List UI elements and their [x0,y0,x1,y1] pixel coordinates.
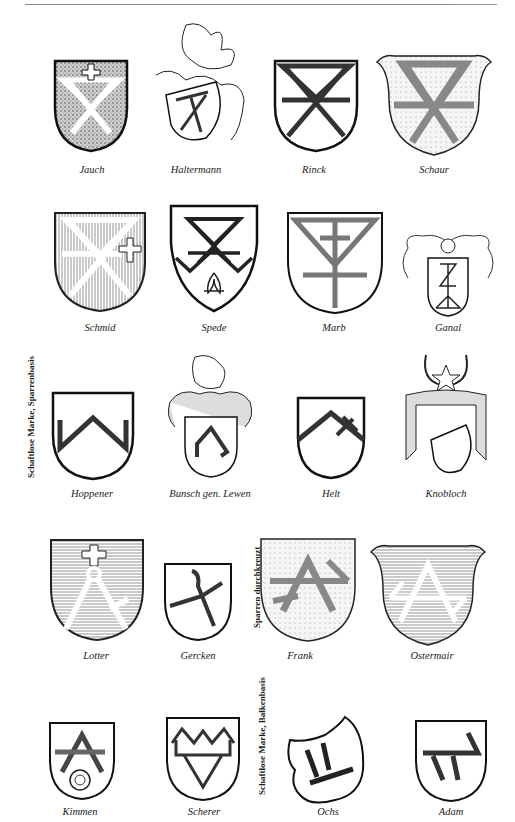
shield-icon [50,390,136,482]
caption: Hoppener [71,488,113,499]
shield-marb [285,210,385,316]
shield-frank [258,536,358,644]
shield-ostermair [368,540,488,648]
shield-gercken [162,561,234,643]
caption: Knobloch [426,488,467,499]
caption: Schmid [85,322,116,333]
shield-icon [164,715,242,803]
shield-helt [295,395,367,481]
shield-ganal [398,228,498,320]
shield-schaur [374,50,494,160]
shield-knobloch [396,350,496,480]
shield-icon [168,203,260,315]
crest-icon [396,350,496,480]
side-label: Schaftlose Marke, Sparrenbasis [26,356,36,478]
crest-icon [146,20,251,150]
shield-icon [285,210,385,316]
caption: Gercken [180,650,215,661]
shield-icon [295,395,367,481]
caption: Spede [201,322,226,333]
shield-icon [162,561,234,643]
side-label: Schaftlose Marke, Balkenbasis [257,677,267,795]
shield-icon [272,58,360,154]
shield-scherer [164,715,242,803]
caption: Frank [287,650,313,661]
caption: Kimmen [63,806,98,817]
caption: Ostermair [410,650,453,661]
shield-rinck [272,58,360,154]
caption: Bunsch gen. Lewen [169,488,250,499]
header-rule [25,4,497,5]
shield-icon [413,718,489,804]
caption: Helt [322,488,340,499]
shield-icon [258,536,358,644]
caption: Ochs [317,806,339,817]
caption: Adam [439,806,464,817]
shield-hoppener [50,390,136,482]
shield-spede [168,203,260,315]
caption: Rinck [302,164,326,175]
shield-icon [374,50,494,160]
shield-bunsch [165,352,255,482]
crest-icon [165,352,255,482]
caption: Lotter [83,650,109,661]
shield-icon [368,540,488,648]
shield-ochs [285,715,367,805]
caption: Haltermann [171,164,222,175]
shield-schmid [52,210,148,314]
shield-icon [52,58,130,154]
running-head [452,0,497,5]
shield-haltermann [146,20,251,150]
caption: Jauch [79,164,104,175]
caption: Marb [322,322,345,333]
shield-icon [285,715,367,805]
shield-icon [47,720,117,802]
caption: Ganal [435,322,461,333]
shield-kimmen [47,720,117,802]
shield-adam [413,718,489,804]
crest-icon [398,228,498,320]
shield-icon [48,537,146,643]
shield-lotter [48,537,146,643]
shield-icon [52,210,148,314]
caption: Schaur [419,164,449,175]
shield-jauch [52,58,130,154]
caption: Scherer [188,806,220,817]
